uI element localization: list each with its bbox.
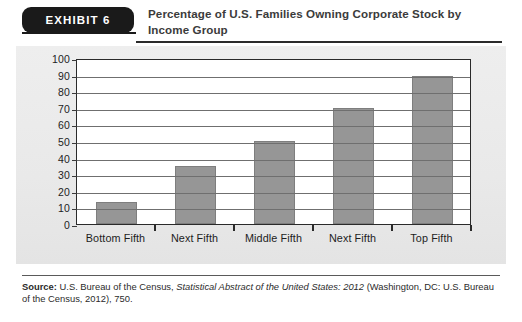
chart-bar xyxy=(254,141,295,224)
x-axis-category-label: Next Fifth xyxy=(329,232,376,244)
exhibit-header: EXHIBIT 6 Percentage of U.S. Families Ow… xyxy=(0,0,522,44)
x-axis-category-label: Top Fifth xyxy=(410,232,452,244)
chart-plot-wrapper: 0102030405060708090100 Bottom FifthNext … xyxy=(16,46,506,264)
gridline xyxy=(77,160,470,161)
y-axis-labels: 0102030405060708090100 xyxy=(26,59,70,225)
x-axis-tick-mark xyxy=(312,225,313,231)
x-axis-category-label: Middle Fifth xyxy=(245,232,302,244)
chart-bar xyxy=(333,108,374,224)
y-axis-tick-mark xyxy=(72,60,77,61)
x-axis-category-label: Bottom Fifth xyxy=(86,232,145,244)
gridline xyxy=(77,193,470,194)
y-axis-tick-label: 60 xyxy=(26,119,70,131)
gridline xyxy=(77,93,470,94)
x-axis-tick-mark xyxy=(470,225,471,231)
gridline xyxy=(77,77,470,78)
plot-area xyxy=(76,59,471,225)
y-axis-tick-label: 0 xyxy=(26,219,70,231)
exhibit-title-line-1: Percentage of U.S. Families Owning Corpo… xyxy=(148,6,498,22)
x-axis-tick-mark xyxy=(233,225,234,231)
header-divider xyxy=(136,41,502,43)
gridline xyxy=(77,176,470,177)
bars-layer xyxy=(77,60,470,224)
chart-bar xyxy=(175,166,216,224)
source-label: Source: xyxy=(22,281,57,292)
source-divider xyxy=(22,275,500,276)
exhibit-figure: EXHIBIT 6 Percentage of U.S. Families Ow… xyxy=(0,0,522,322)
gridline xyxy=(77,209,470,210)
source-publication-title: Statistical Abstract of the United State… xyxy=(176,281,364,292)
x-axis-category-label: Next Fifth xyxy=(171,232,218,244)
y-axis-tick-label: 30 xyxy=(26,169,70,181)
y-axis-tick-label: 70 xyxy=(26,103,70,115)
x-axis-tick-mark xyxy=(391,225,392,231)
y-axis-tick-label: 80 xyxy=(26,86,70,98)
gridline xyxy=(77,143,470,144)
gridline xyxy=(77,126,470,127)
y-axis-tick-label: 40 xyxy=(26,153,70,165)
source-note: Source: U.S. Bureau of the Census, Stati… xyxy=(22,281,502,306)
chart-panel: 0102030405060708090100 Bottom FifthNext … xyxy=(16,46,506,264)
y-axis-tick-label: 100 xyxy=(26,53,70,65)
chart-bar xyxy=(96,202,137,224)
chart-bar xyxy=(412,76,453,224)
exhibit-title: Percentage of U.S. Families Owning Corpo… xyxy=(148,6,498,37)
y-axis-tick-label: 10 xyxy=(26,202,70,214)
gridline xyxy=(77,110,470,111)
y-axis-tick-label: 50 xyxy=(26,136,70,148)
exhibit-badge: EXHIBIT 6 xyxy=(22,7,134,33)
x-axis-tick-mark xyxy=(154,225,155,231)
y-axis-tick-label: 90 xyxy=(26,70,70,82)
source-text-before: U.S. Bureau of the Census, xyxy=(57,281,176,292)
exhibit-badge-label: EXHIBIT 6 xyxy=(46,14,111,26)
y-axis-tick-mark xyxy=(72,226,77,227)
y-axis-tick-label: 20 xyxy=(26,186,70,198)
exhibit-title-line-2: Income Group xyxy=(148,22,498,38)
